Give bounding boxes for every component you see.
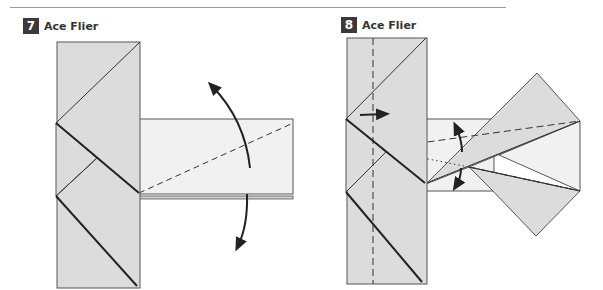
fold-right-arrow-icon — [360, 114, 384, 115]
step-8-diagram — [0, 0, 603, 290]
step-8-vertical-column — [346, 38, 427, 284]
